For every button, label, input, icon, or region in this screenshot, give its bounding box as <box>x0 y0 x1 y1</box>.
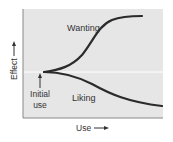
diagram: Wanting Liking Initial use Use Effect <box>0 0 173 142</box>
wanting-label: Wanting <box>67 23 100 33</box>
x-axis-arrow-icon <box>104 126 109 130</box>
initial-label-line1: Initial <box>30 89 50 99</box>
initial-label-line2: use <box>33 100 47 110</box>
x-axis-label: Use <box>76 123 91 133</box>
liking-label: Liking <box>72 93 96 103</box>
y-axis-arrow-icon <box>12 41 16 46</box>
y-axis-label: Effect <box>9 58 19 80</box>
